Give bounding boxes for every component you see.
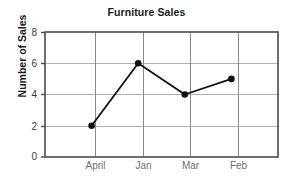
x-tick-label-jan: Jan <box>135 160 151 171</box>
horizontal-gridlines <box>45 64 278 127</box>
data-point-mar <box>182 91 189 98</box>
plot-area: 8 6 4 2 0 April Jan Mar Feb <box>0 0 293 187</box>
data-point-feb <box>228 76 235 83</box>
y-tick-label-8: 8 <box>31 27 37 38</box>
data-point-jan <box>135 60 142 67</box>
x-tick-label-feb: Feb <box>230 160 248 171</box>
y-tick-label-2: 2 <box>31 121 37 132</box>
y-tick-label-4: 4 <box>31 89 37 100</box>
x-tick-label-mar: Mar <box>182 160 200 171</box>
chart-container: Furniture Sales Number of Sales 8 6 <box>0 0 293 187</box>
y-tick-label-6: 6 <box>31 58 37 69</box>
data-point-april <box>88 122 95 129</box>
x-tick-label-april: April <box>85 160 105 171</box>
y-tick-label-0: 0 <box>31 151 37 162</box>
